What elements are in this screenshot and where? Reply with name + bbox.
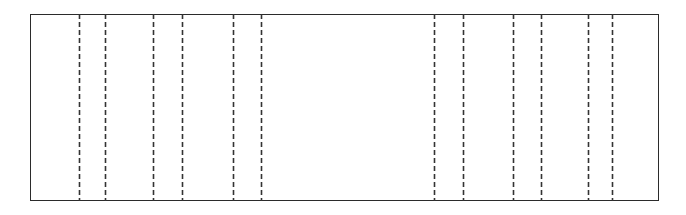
dashed-lines-svg — [0, 0, 686, 215]
figure-canvas — [0, 0, 686, 215]
